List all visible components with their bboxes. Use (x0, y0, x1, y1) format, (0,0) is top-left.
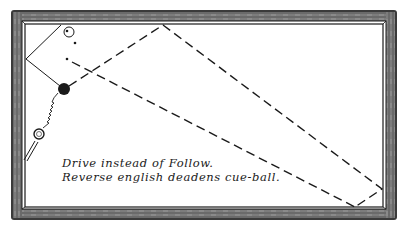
caption-line-1: Drive instead of Follow. (62, 157, 214, 170)
caption-line-2: Reverse english deadens cue-ball. (62, 171, 280, 184)
billiard-diagram (0, 0, 404, 229)
object-ball-black (58, 83, 70, 95)
table-frame (11, 10, 397, 220)
cue-ball (34, 129, 44, 139)
